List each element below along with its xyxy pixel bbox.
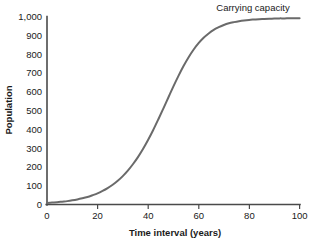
y-tick-label-400: 400 [26, 124, 42, 135]
y-tick-label-300: 300 [26, 143, 42, 154]
y-tick-label-900: 900 [26, 30, 42, 41]
y-tick-label-600: 600 [26, 86, 42, 97]
y-tick-label-200: 200 [26, 161, 42, 172]
y-axis-tick-labels: 1,000 900 800 700 600 500 400 300 200 10… [18, 11, 42, 210]
y-tick-label-500: 500 [26, 105, 42, 116]
y-tick-label-700: 700 [26, 67, 42, 78]
x-tick-label-80: 80 [244, 210, 255, 221]
y-tick-label-1000: 1,000 [18, 11, 42, 22]
x-axis-ticks [98, 205, 300, 209]
x-axis-tick-labels: 0 20 40 60 80 100 [44, 210, 307, 221]
x-tick-label-20: 20 [92, 210, 103, 221]
population-curve [47, 18, 300, 203]
x-tick-label-0: 0 [44, 210, 49, 221]
x-tick-label-100: 100 [292, 210, 308, 221]
y-axis-title: Population [3, 85, 14, 134]
carrying-capacity-annotation: Carrying capacity [216, 2, 290, 13]
y-tick-label-800: 800 [26, 49, 42, 60]
logistic-growth-chart: Carrying capacity 1,000 900 800 700 600 … [0, 0, 312, 241]
y-tick-label-0: 0 [37, 199, 42, 210]
x-tick-label-40: 40 [143, 210, 154, 221]
x-tick-label-60: 60 [194, 210, 205, 221]
x-axis-title: Time interval (years) [129, 227, 221, 238]
chart-canvas: Carrying capacity 1,000 900 800 700 600 … [0, 0, 312, 241]
y-tick-label-100: 100 [26, 180, 42, 191]
